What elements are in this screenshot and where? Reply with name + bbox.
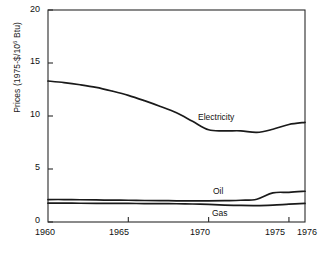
chart-plot-area xyxy=(0,0,327,257)
series-line-gas xyxy=(48,203,305,205)
series-line-oil xyxy=(48,191,305,201)
chart-figure: Prices (1975-$/106 Btu) 20 15 10 5 0 196… xyxy=(0,0,327,257)
series-line-electricity xyxy=(48,81,305,132)
plot-frame xyxy=(48,10,305,222)
